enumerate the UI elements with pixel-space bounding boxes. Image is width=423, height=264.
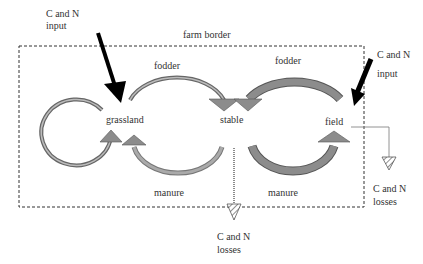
manure-arrow-stable-to-grassland (122, 135, 222, 173)
fodder-label-right: fodder (275, 55, 301, 67)
manure-arrow-stable-to-field (252, 131, 350, 171)
node-grassland: grassland (106, 114, 144, 126)
fodder-arrow-field-to-stable (234, 82, 340, 111)
manure-label-left: manure (154, 187, 184, 199)
input-label-left: C and N input (46, 8, 79, 32)
input-label-right-line1: C and N (377, 49, 410, 61)
farm-border (19, 46, 364, 207)
loss-arrow-stable (227, 148, 241, 220)
loss-label-field-line1: C and N (373, 183, 406, 195)
node-stable: stable (220, 114, 243, 126)
input-label-right-line2: input (377, 68, 398, 80)
fodder-arrow-grassland-to-stable (130, 78, 239, 111)
loss-label-field-line2: losses (373, 196, 397, 208)
grassland-self-loop-arrow (41, 99, 122, 165)
loss-label-stable-line1: C and N (217, 231, 250, 243)
farm-border-label: farm border (183, 29, 230, 41)
manure-label-right: manure (268, 187, 298, 199)
loss-arrow-field (351, 127, 396, 170)
fodder-label-left: fodder (154, 60, 180, 72)
input-arrow-field (351, 59, 371, 106)
loss-label-stable-line2: losses (217, 244, 241, 256)
node-field: field (325, 116, 343, 128)
input-arrow-grassland (98, 33, 126, 103)
